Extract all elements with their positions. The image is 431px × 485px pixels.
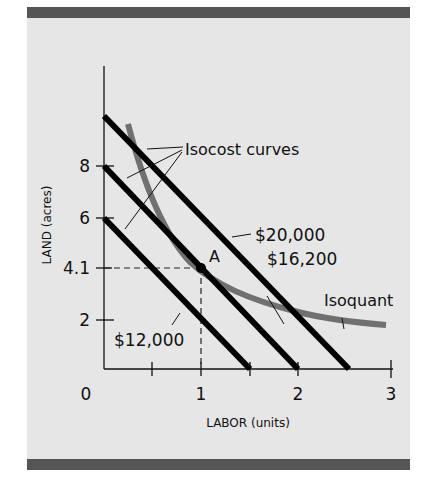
y-tick-label-8: 8 xyxy=(79,156,90,176)
leader-20000 xyxy=(232,234,251,237)
point-a-marker xyxy=(196,263,206,273)
point-a-label: A xyxy=(209,247,220,266)
y-tick-label-6: 6 xyxy=(79,208,90,228)
isoquant-label: Isoquant xyxy=(324,291,393,310)
x-tick-label-2: 2 xyxy=(293,384,304,404)
cost-20000-label: $20,000 xyxy=(255,225,325,245)
x-tick-label-0: 0 xyxy=(81,384,92,404)
y-tick-label-4-1: 4.1 xyxy=(63,258,90,278)
y-tick-label-2: 2 xyxy=(79,310,90,330)
x-tick-label-1: 1 xyxy=(196,384,207,404)
x-axis-title: LABOR (units) xyxy=(206,416,290,430)
cost-16200-label: $16,200 xyxy=(267,249,337,269)
cost-12000-label: $12,000 xyxy=(114,330,184,350)
y-axis-title: LAND (acres) xyxy=(40,186,54,265)
leader-12000 xyxy=(172,313,180,325)
x-tick-label-3: 3 xyxy=(386,384,397,404)
leader-isocost-1 xyxy=(147,147,183,149)
isoquant-isocost-chart: Isocost curves A $20,000 $16,200 $12,000… xyxy=(0,0,431,485)
isocost-curves-label: Isocost curves xyxy=(185,140,299,159)
